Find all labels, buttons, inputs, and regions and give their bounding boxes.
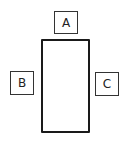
label-box-a: A (54, 11, 78, 34)
label-box-b: B (10, 71, 34, 95)
label-b: B (18, 76, 26, 90)
label-a: A (62, 16, 70, 30)
central-rectangle (41, 39, 90, 133)
label-c: C (103, 77, 111, 91)
label-box-c: C (95, 72, 119, 96)
